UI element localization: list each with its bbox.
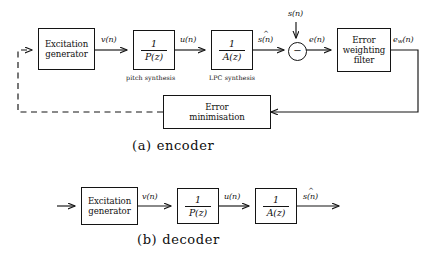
encoder-note-pitch-synthesis: pitch synthesis [126,74,175,81]
encoder-excitation-generator-line2: generator [45,49,87,59]
decoder-signal-label-v-n: v(n) [142,192,158,201]
encoder-summing-node[interactable]: − [288,42,307,61]
decoder-caption-text: decoder [162,232,220,247]
encoder-signal-label-ew-n: ew(n) [393,35,414,44]
encoder-excitation-generator-line1: Excitation [45,39,88,49]
encoder-caption-text: encoder [157,138,215,153]
encoder-error-weighting-filter-line1: Error [352,35,375,45]
decoder-caption: (b)decoder [137,232,220,247]
figure-celp-block-diagram: Excitation generator 1 P(z) 1 A(z) − Err… [0,0,432,265]
encoder-pitch-synthesis-fraction: 1 P(z) [141,39,167,61]
encoder-signal-label-e-n: e(n) [309,35,325,44]
encoder-error-minimisation-line1: Error [205,102,228,112]
encoder-caption: (a)encoder [132,138,214,153]
encoder-lpc-synthesis-denominator: A(z) [219,50,246,61]
decoder-excitation-generator-line1: Excitation [88,196,131,206]
encoder-signal-label-u-n: u(n) [180,35,196,44]
encoder-pitch-synthesis-block[interactable]: 1 P(z) [133,30,175,70]
encoder-lpc-synthesis-fraction: 1 A(z) [219,39,246,61]
encoder-signal-label-s-n-input: s(n) [288,9,303,18]
encoder-error-minimisation-block[interactable]: Error minimisation [163,95,271,129]
encoder-lpc-synthesis-numerator: 1 [219,39,246,49]
decoder-excitation-generator-line2: generator [88,206,130,216]
encoder-signal-label-s-hat-n: s(n) [258,35,273,44]
decoder-pitch-synthesis-block[interactable]: 1 P(z) [177,188,219,224]
decoder-signal-label-u-n: u(n) [224,192,240,201]
encoder-error-weighting-filter-block[interactable]: Error weighting filter [337,28,391,72]
encoder-error-weighting-filter-line2: weighting [343,45,386,55]
encoder-caption-tag: (a) [132,138,152,153]
encoder-error-minimisation-line2: minimisation [189,112,244,122]
encoder-signal-label-s-hat-n-text: s(n) [258,35,273,44]
decoder-excitation-generator-block[interactable]: Excitation generator [81,187,138,225]
encoder-pitch-synthesis-denominator: P(z) [141,50,167,61]
decoder-lpc-synthesis-fraction: 1 A(z) [263,195,290,217]
decoder-caption-tag: (b) [137,232,157,247]
encoder-excitation-generator-block[interactable]: Excitation generator [38,28,95,70]
encoder-lpc-synthesis-block[interactable]: 1 A(z) [211,30,253,70]
encoder-pitch-synthesis-numerator: 1 [141,39,167,49]
decoder-pitch-synthesis-numerator: 1 [185,195,211,205]
encoder-summing-node-sign: − [293,46,301,56]
decoder-lpc-synthesis-block[interactable]: 1 A(z) [255,188,297,224]
encoder-error-weighting-filter-line3: filter [354,55,375,65]
decoder-signal-label-s-hat-n-text: s(n) [303,192,318,201]
encoder-signal-label-ew-tail: (n) [403,35,414,44]
decoder-pitch-synthesis-denominator: P(z) [185,206,211,217]
decoder-lpc-synthesis-numerator: 1 [263,195,290,205]
decoder-lpc-synthesis-denominator: A(z) [263,206,290,217]
decoder-pitch-synthesis-fraction: 1 P(z) [185,195,211,217]
encoder-signal-label-v-n: v(n) [101,35,117,44]
encoder-note-lpc-synthesis: LPC synthesis [209,74,255,81]
decoder-signal-label-s-hat-n: s(n) [303,192,318,201]
